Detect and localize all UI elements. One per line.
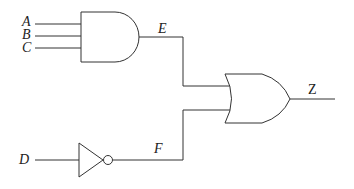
label-c: C — [22, 41, 31, 55]
or-gate — [225, 74, 290, 123]
label-z: Z — [308, 83, 317, 97]
not-gate — [79, 143, 103, 177]
wire-e — [139, 37, 230, 86]
label-e: E — [158, 22, 167, 36]
circuit-drawing — [0, 0, 354, 189]
wire-f — [113, 110, 230, 160]
label-f: F — [154, 142, 163, 156]
logic-circuit-diagram: A B C E Z D F — [0, 0, 354, 189]
not-bubble — [104, 156, 113, 165]
and-gate — [81, 12, 139, 62]
label-d: D — [19, 153, 29, 167]
